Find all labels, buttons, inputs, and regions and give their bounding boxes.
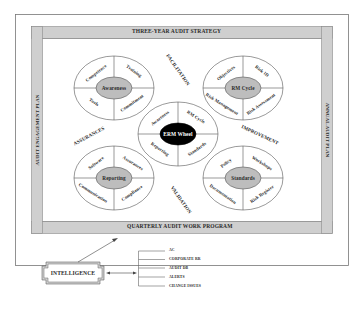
source-ac: AC [169, 248, 175, 252]
awareness-center-label: Awareness [102, 85, 126, 91]
bottom-band-label: QUARTERLY AUDIT WORK PROGRAM [127, 223, 232, 229]
rm-cycle-center-label: RM Cycle [231, 85, 254, 91]
double-arrow [106, 272, 137, 275]
source-alerts: ALERTS [169, 275, 185, 279]
top-band-label: THREE-YEAR AUDIT STRATEGY [132, 28, 221, 34]
left-band-label: AUDIT ENGAGEMENT PLAN [35, 95, 40, 166]
erm-center-label: ERM Wheel [163, 131, 192, 137]
intelligence-label: INTELLIGENCE [51, 270, 95, 276]
source-audit-db: AUDIT DB [169, 266, 188, 270]
source-corporate-rr: CORPORATE RR [169, 257, 201, 261]
standards-center-label: Standards [231, 175, 255, 181]
right-band-label: ANNUAL AUDIT PLAN [325, 103, 330, 158]
reporting-center-label: Reporting [102, 175, 125, 181]
source-change-issues: CHANGE ISSUES [169, 284, 201, 288]
